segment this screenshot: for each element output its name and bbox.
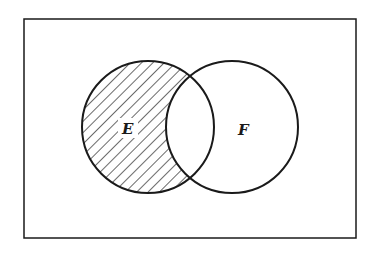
- set-f-label: F: [237, 121, 250, 139]
- set-e-label: E: [121, 120, 134, 138]
- shaded-region-e-minus-f: [80, 58, 220, 198]
- venn-diagram: E F: [0, 0, 371, 257]
